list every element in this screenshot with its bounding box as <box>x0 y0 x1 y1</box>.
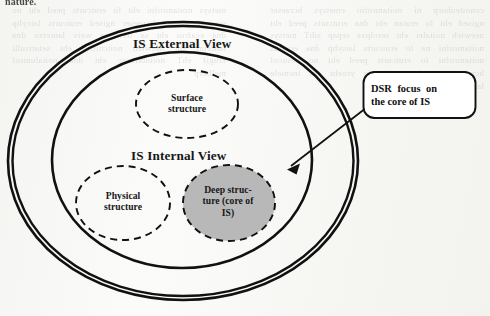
physical-structure-label-line2: structure <box>88 201 158 212</box>
surface-structure-label: Surface structure <box>152 92 222 115</box>
deep-structure-label-line1: Deep struc- <box>190 184 266 195</box>
scanned-page: conoiteuborp ni noitamrofni emetsys hcra… <box>0 0 490 316</box>
callout-label: DSR focus on the core of IS <box>371 82 469 108</box>
deep-structure-label-line3: IS) <box>190 207 266 218</box>
callout-label-line2: the core of IS <box>371 95 469 108</box>
physical-structure-label-line1: Physical <box>88 190 158 201</box>
surface-structure-label-line1: Surface <box>152 92 222 103</box>
diagram-canvas <box>0 0 490 316</box>
callout-arrowhead <box>287 164 300 175</box>
deep-structure-label: Deep struc- ture (core of IS) <box>190 184 266 218</box>
physical-structure-label: Physical structure <box>88 190 158 213</box>
surface-structure-label-line2: structure <box>152 103 222 114</box>
callout-label-line1: DSR focus on <box>371 82 469 95</box>
is-external-view-label: IS External View <box>133 36 231 52</box>
deep-structure-label-line2: ture (core of <box>190 195 266 206</box>
is-internal-view-label: IS Internal View <box>131 148 226 164</box>
